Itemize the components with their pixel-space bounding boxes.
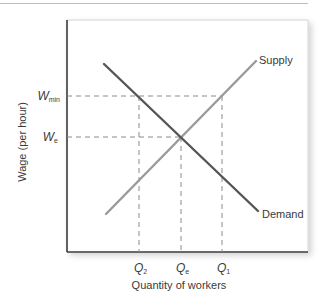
labor-market-chart: Supply Demand Wmin We Q2 Qe Q1 Quantity … [0,0,324,305]
x-axis-title: Quantity of workers [132,279,227,291]
qe-tick-label: Qe [176,261,189,275]
y-axis-title: Wage (per hour) [16,102,28,182]
wmin-tick-label: Wmin [37,89,60,103]
q2-tick-label: Q2 [134,261,147,275]
demand-label: Demand [262,208,304,220]
q1-tick-label: Q1 [217,261,230,275]
supply-label: Supply [259,54,293,66]
we-tick-label: We [43,130,58,144]
